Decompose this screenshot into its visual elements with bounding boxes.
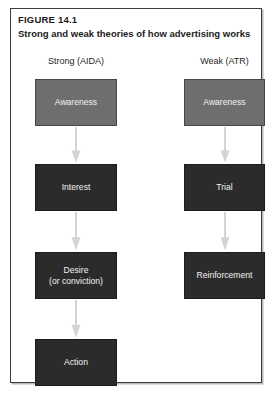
arrow-glyph [220,127,230,163]
stage-label: Trial [216,182,232,193]
stage-box-weak-3: Reinforcement [184,252,265,299]
stage-label: Interest [62,182,91,193]
column-heading-weak: Weak (ATR) [184,56,265,67]
flow-arrow-strong-2 [71,212,81,251]
flow-arrow-strong-3 [71,300,81,338]
arrow-glyph [71,212,81,251]
stage-box-strong-1: Awareness [35,79,117,126]
column-heading-strong: Strong (AIDA) [35,56,117,67]
stage-box-weak-1: Awareness [184,79,265,126]
arrow-glyph [71,300,81,338]
stage-label: Reinforcement [197,270,253,281]
stage-label: Action [64,357,88,368]
stage-label: (or conviction) [49,276,103,287]
stage-box-strong-3: Desire(or conviction) [35,252,117,299]
stage-box-strong-2: Interest [35,164,117,211]
stage-label: Awareness [55,97,97,108]
stage-box-strong-4: Action [35,339,117,386]
flow-arrow-weak-1 [220,127,230,163]
figure-frame: FIGURE 14.1 Strong and weak theories of … [10,8,262,383]
arrow-glyph [220,212,230,251]
arrow-glyph [71,127,81,163]
stage-box-weak-2: Trial [184,164,265,211]
stage-label: Awareness [203,97,245,108]
figure-header: FIGURE 14.1 Strong and weak theories of … [18,14,255,40]
flow-arrow-weak-2 [220,212,230,251]
figure-title: Strong and weak theories of how advertis… [18,27,255,40]
figure-number: FIGURE 14.1 [18,14,255,26]
stage-label: Desire [64,265,89,276]
flow-arrow-strong-1 [71,127,81,163]
